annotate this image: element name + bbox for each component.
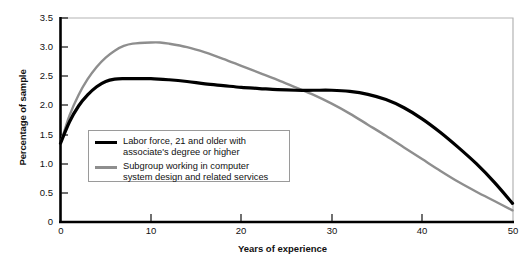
plot-frame [60,18,513,222]
x-tick-label-50: 50 [493,226,531,236]
legend-label-subgroup-line2: system design and related services [123,172,268,182]
legend-label-laborforce-line1: Labor force, 21 and older with [123,136,246,146]
legend-label-laborforce-line2: associate's degree or higher [123,147,240,157]
x-tick-label-40: 40 [402,226,442,236]
y-tick-label-1.5: 1.5 [11,130,53,140]
legend-item-laborforce: Labor force, 21 and older with associate… [95,136,283,158]
x-tick-label-10: 10 [131,226,171,236]
legend-label-subgroup: Subgroup working in computer system desi… [123,161,268,183]
y-tick-label-0.5: 0.5 [11,188,53,198]
y-tick-label-3.0: 3.0 [11,42,53,52]
x-tick-label-30: 30 [312,226,352,236]
y-tick-marks [61,18,68,193]
y-tick-label-1.0: 1.0 [11,159,53,169]
y-tick-label-3.5: 3.5 [11,13,53,23]
x-tick-marks [151,214,422,221]
chart-legend: Labor force, 21 and older with associate… [88,130,290,182]
black-line-swatch-icon [95,141,117,144]
legend-label-subgroup-line1: Subgroup working in computer [123,161,249,171]
legend-label-laborforce: Labor force, 21 and older with associate… [123,136,246,158]
y-tick-label-2.5: 2.5 [11,71,53,81]
figure-caption [12,259,342,268]
chart-figure: Percentage of sample Years of experience [0,0,531,268]
x-tick-label-20: 20 [221,226,261,236]
legend-item-subgroup: Subgroup working in computer system desi… [95,161,283,183]
series-line-subgroup [61,42,513,210]
y-tick-label-2.0: 2.0 [11,100,53,110]
x-tick-label-0: 0 [41,226,81,236]
gray-line-swatch-icon [95,166,117,169]
